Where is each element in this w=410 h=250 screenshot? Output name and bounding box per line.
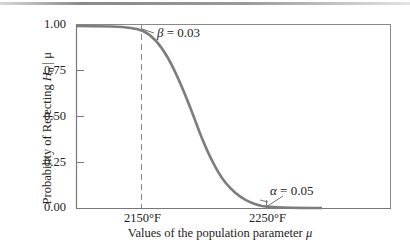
y-axis-label: Probability of Rejecting H0 | μ xyxy=(40,18,57,238)
beta-symbol: β xyxy=(157,25,163,40)
x-tick-label: 2250°F xyxy=(249,211,286,226)
y-label-sub: 0 xyxy=(46,68,56,73)
x-axis-label: Values of the population parameter μ xyxy=(0,226,410,241)
y-label-suffix: | μ xyxy=(40,52,54,67)
x-tick-label: 2150°F xyxy=(124,211,161,226)
alpha-annotation: α = 0.05 xyxy=(270,183,313,199)
y-label-prefix: Probability of Rejecting xyxy=(40,81,54,204)
alpha-value: = 0.05 xyxy=(280,183,313,198)
power-curve xyxy=(77,26,322,208)
y-label-var: H xyxy=(40,72,54,81)
beta-value: = 0.03 xyxy=(167,25,200,40)
y-ticks xyxy=(76,71,84,163)
alpha-symbol: α xyxy=(270,183,277,198)
x-label-var: μ xyxy=(306,226,312,240)
x-label-prefix: Values of the population parameter xyxy=(128,226,306,240)
beta-annotation: β = 0.03 xyxy=(157,25,200,41)
